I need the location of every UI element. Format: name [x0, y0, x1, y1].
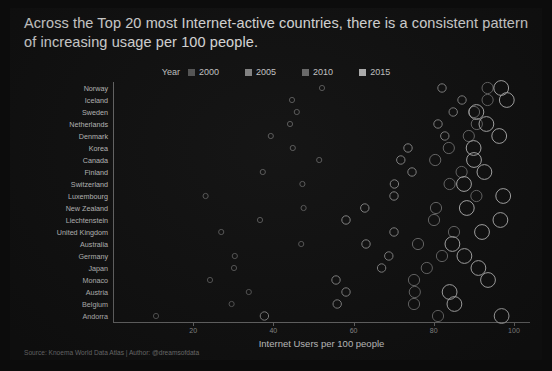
data-point — [458, 96, 466, 104]
data-point — [493, 213, 508, 228]
y-axis-label-japan: Japan — [88, 264, 108, 273]
data-point — [479, 117, 494, 132]
x-tick-mark — [354, 322, 355, 326]
plot-area: NorwayIcelandSwedenNetherlandsDenmarkKor… — [10, 82, 542, 322]
data-point — [436, 250, 447, 261]
y-axis-label-iceland: Iceland — [85, 96, 108, 105]
data-point — [289, 97, 294, 102]
data-point — [390, 228, 398, 236]
legend-item-2015[interactable]: 2015 — [359, 67, 390, 77]
data-point — [463, 130, 474, 141]
data-point — [499, 93, 514, 108]
legend-title: Year — [162, 67, 180, 77]
y-axis-label-canada: Canada — [83, 156, 108, 165]
bubble-layer — [114, 82, 530, 322]
data-point — [301, 205, 306, 210]
data-point — [477, 165, 492, 180]
y-axis-label-new-zealand: New Zealand — [66, 204, 108, 213]
data-point — [444, 178, 455, 189]
data-point — [457, 249, 472, 264]
data-point — [457, 177, 472, 192]
legend-item-label: 2000 — [199, 67, 219, 77]
data-point — [290, 145, 295, 150]
data-point — [443, 142, 454, 153]
chart-card: Across the Top 20 most Internet-active c… — [10, 8, 542, 360]
x-tick-mark — [193, 322, 194, 326]
data-point — [300, 181, 305, 186]
data-point — [482, 94, 493, 105]
data-point — [494, 81, 509, 96]
legend-swatch-icon — [245, 69, 252, 76]
data-point — [434, 120, 442, 128]
x-tick-label: 80 — [430, 327, 438, 334]
data-point — [475, 225, 490, 240]
data-point — [441, 132, 449, 140]
x-tick-label: 20 — [189, 327, 197, 334]
data-point — [342, 216, 350, 224]
y-axis-label-switzerland: Switzerland — [71, 180, 108, 189]
y-axis-label-australia: Australia — [80, 240, 108, 249]
legend-item-label: 2005 — [256, 67, 276, 77]
x-tick-label: 60 — [350, 327, 358, 334]
y-axis-label-finland: Finland — [84, 168, 108, 177]
y-axis-label-liechtenstein: Liechtenstein — [66, 216, 108, 225]
data-point — [492, 129, 507, 144]
data-point — [404, 144, 412, 152]
data-point — [412, 238, 423, 249]
data-point — [299, 241, 304, 246]
screenshot-root: Across the Top 20 most Internet-active c… — [0, 0, 552, 371]
y-axis-label-belgium: Belgium — [82, 300, 108, 309]
data-point — [287, 121, 292, 126]
plot-panel — [113, 82, 530, 323]
legend-swatch-icon — [188, 69, 195, 76]
y-axis-label-sweden: Sweden — [82, 108, 108, 117]
legend-item-label: 2015 — [370, 67, 390, 77]
data-point — [361, 204, 369, 212]
data-point — [207, 277, 212, 282]
data-point — [408, 298, 419, 309]
legend-item-2000[interactable]: 2000 — [188, 67, 219, 77]
x-tick-mark — [273, 322, 274, 326]
x-tick-mark — [514, 322, 515, 326]
legend-item-2005[interactable]: 2005 — [245, 67, 276, 77]
data-point — [257, 217, 262, 222]
data-point — [153, 313, 158, 318]
y-axis-label-united-kingdom: United Kingdom — [57, 228, 108, 237]
data-point — [471, 190, 482, 201]
data-point — [445, 237, 460, 252]
data-point — [467, 153, 482, 168]
page-title: Across the Top 20 most Internet-active c… — [24, 14, 529, 52]
data-point — [268, 133, 273, 138]
data-point — [362, 240, 370, 248]
y-axis-label-germany: Germany — [78, 252, 108, 261]
data-point — [442, 285, 457, 300]
data-point — [432, 310, 443, 321]
legend-swatch-icon — [302, 69, 309, 76]
y-axis-labels: NorwayIcelandSwedenNetherlandsDenmarkKor… — [10, 82, 113, 322]
data-point — [246, 289, 251, 294]
data-point — [471, 261, 486, 276]
data-point — [421, 262, 432, 273]
data-point — [377, 264, 385, 272]
x-tick-label: 100 — [508, 327, 520, 334]
legend-item-2010[interactable]: 2010 — [302, 67, 333, 77]
data-point — [408, 168, 416, 176]
y-axis-label-norway: Norway — [84, 84, 108, 93]
data-point — [496, 189, 511, 204]
y-axis-label-andorra: Andorra — [82, 312, 108, 321]
y-axis-label-austria: Austria — [86, 288, 108, 297]
data-point — [390, 180, 398, 188]
data-point — [231, 265, 236, 270]
data-point — [449, 108, 457, 116]
data-point — [494, 309, 509, 324]
source-credit: Source: Knoema World Data Atlas | Author… — [24, 349, 199, 356]
data-point — [294, 109, 299, 114]
y-axis-label-monaco: Monaco — [82, 276, 108, 285]
data-point — [333, 300, 341, 308]
data-point — [342, 288, 350, 296]
data-point — [203, 193, 208, 198]
data-point — [408, 274, 419, 285]
y-axis-label-korea: Korea — [89, 144, 108, 153]
data-point — [397, 156, 405, 164]
y-axis-label-netherlands: Netherlands — [69, 120, 108, 129]
